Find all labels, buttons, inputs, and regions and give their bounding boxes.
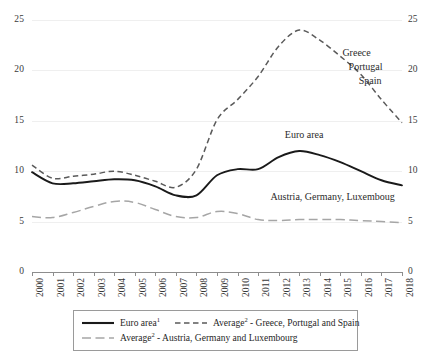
legend-label-euro-area: Euro area1 (120, 317, 160, 329)
legend-item-austria-germany-luxembourg[interactable]: Average2 - Austria, Germany and Luxembou… (81, 332, 298, 344)
legend-item-euro-area[interactable]: Euro area1 (81, 317, 160, 329)
annotation-greece: Greece (342, 47, 370, 59)
legend-label-austria-germany-luxembourg: Average2 - Austria, Germany and Luxembou… (120, 332, 298, 344)
legend-label-greece-portugal-spain: Average2 - Greece, Portugal and Spain (213, 317, 360, 329)
series-line-austria-germany-luxembourg (32, 201, 402, 223)
legend-swatch-dashed (174, 319, 208, 327)
legend-item-greece-portugal-spain[interactable]: Average2 - Greece, Portugal and Spain (174, 317, 360, 329)
series-line-euro-area (32, 151, 402, 197)
legend-row-1: Euro area1 Average2 - Greece, Portugal a… (81, 315, 350, 330)
legend-swatch-solid (81, 319, 115, 327)
annotation-spain: Spain (359, 75, 382, 87)
annotation-austria-germany-luxembourg: Austria, Germany, Luxemboug (270, 191, 394, 203)
chart-legend: Euro area1 Average2 - Greece, Portugal a… (73, 310, 358, 351)
unemployment-rate-line-chart: 25 20 15 10 5 0 25 20 15 10 5 0 20002001… (0, 0, 435, 357)
annotation-euro-area: Euro area (285, 129, 324, 141)
legend-swatch-long-dashed (81, 334, 115, 342)
annotation-portugal: Portugal (349, 61, 383, 73)
legend-row-2: Average2 - Austria, Germany and Luxembou… (81, 330, 350, 345)
